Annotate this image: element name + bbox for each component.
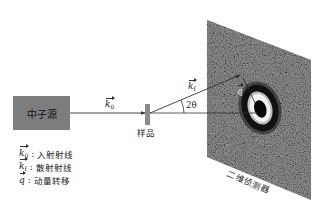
legend-item-scattered: kf: 散射射线 bbox=[19, 160, 73, 173]
sample-block bbox=[145, 104, 150, 125]
angle-arc bbox=[181, 100, 184, 113]
legend-item-momentum: q: 动量转移 bbox=[19, 173, 73, 186]
detector-panel bbox=[200, 15, 320, 205]
sample-label: 样品 bbox=[137, 129, 155, 138]
incident-vector-label: k0 bbox=[105, 100, 114, 110]
angle-label: 2θ bbox=[186, 101, 197, 110]
q-vector-label: q bbox=[237, 87, 243, 96]
legend: k0: 入射射线 kf: 散射射线 q: 动量转移 bbox=[19, 147, 73, 186]
scattered-vector-label: kf bbox=[188, 82, 196, 92]
scattering-diagram: 中子源 k0 样品 kf 2θ q 二维侦测器 k0: 入射射线 kf: 散射射… bbox=[0, 0, 328, 213]
neutron-source: 中子源 bbox=[13, 96, 70, 130]
neutron-source-label: 中子源 bbox=[27, 106, 57, 121]
